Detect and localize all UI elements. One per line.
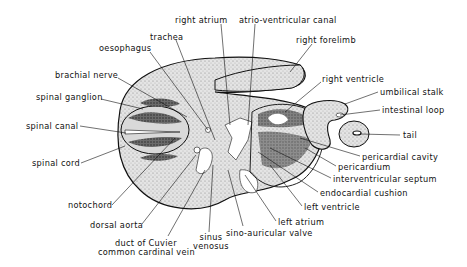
label-spinal-ganglion: spinal ganglion <box>36 93 103 102</box>
spinal-cord-shape <box>121 106 189 154</box>
label-right-ventricle: right ventricle <box>322 75 384 84</box>
label-spinal-canal: spinal canal <box>26 122 78 131</box>
label-spinal-cord: spinal cord <box>32 159 80 168</box>
label-pericardial-cavity: pericardial cavity <box>362 153 438 162</box>
label-sino-auricular-valve: sino-auricular valve <box>226 229 313 238</box>
umbilical-stalk-shape <box>303 101 348 150</box>
label-left-atrium: left atrium <box>278 218 324 227</box>
label-sinus-venosus: sinus venosus <box>193 233 229 251</box>
label-right-forelimb: right forelimb <box>296 36 356 45</box>
label-left-ventricle: left ventricle <box>304 203 360 212</box>
label-endocardial-cushion: endocardial cushion <box>320 189 408 198</box>
embryo-section-diagram <box>0 0 467 267</box>
label-common-cardinal-vein: common cardinal vein <box>98 248 195 257</box>
label-intestinal-loop: intestinal loop <box>382 106 445 115</box>
label-oesophagus: oesophagus <box>99 44 151 53</box>
label-interventricular-septum: interventricular septum <box>333 175 437 184</box>
label-trachea: trachea <box>150 33 183 42</box>
label-right-atrium: right atrium <box>175 16 227 25</box>
label-atrio-ventricular-canal: atrio-ventricular canal <box>239 16 337 25</box>
label-umbilical-stalk: umbilical stalk <box>380 88 444 97</box>
label-dorsal-aorta: dorsal aorta <box>90 221 143 230</box>
label-brachial-nerve: brachial nerve <box>55 71 118 80</box>
label-pericardium: pericardium <box>338 163 391 172</box>
label-notochord: notochord <box>68 201 112 210</box>
label-tail: tail <box>403 131 417 140</box>
